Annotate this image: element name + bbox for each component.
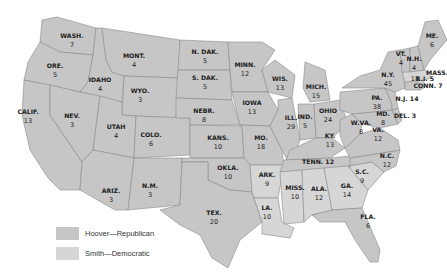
electoral-votes: 5 [53,71,57,79]
electoral-votes: 18 [411,75,419,83]
electoral-votes: 20 [210,218,218,226]
electoral-votes: 13 [248,108,256,116]
state-label: COLO. [141,131,162,138]
state-label: ILL. [285,114,298,121]
state-label: WYO. [131,87,150,94]
state-label: DEL. 3 [394,112,416,119]
electoral-votes: 10 [214,143,222,151]
state-label: WASH. [60,32,83,39]
state-label: ORE. [47,62,64,69]
state-label: KY. [325,132,336,139]
hoover-swatch [56,227,79,240]
state-label: IOWA [243,99,262,106]
electoral-votes: 13 [276,84,284,92]
state-north-dakota [178,40,230,70]
state-label: IND. [298,113,313,120]
electoral-votes: 3 [70,121,74,129]
electoral-votes: 9 [360,177,364,185]
state-label: ARK. [259,171,276,178]
legend-item-smith: Smith—Democratic [56,247,154,260]
electoral-votes: 15 [312,92,320,100]
state-label: TENN. 12 [302,158,334,165]
legend-label-hoover: Hoover—Republican [85,229,154,238]
state-label: VA. [372,126,384,133]
state-arizona [80,150,134,210]
electoral-votes: 12 [315,194,323,202]
electoral-votes: 10 [224,173,232,181]
state-label: N.C. [380,152,394,159]
electoral-votes: 18 [257,143,265,151]
electoral-votes: 7 [70,41,74,49]
state-label: N.H. [406,55,421,62]
state-label: CONN. 7 [414,82,443,89]
state-label: IDAHO [89,76,112,83]
state-label: GA. [341,182,353,189]
state-label: N.Y. [381,71,394,78]
state-label: MD. [376,110,390,117]
state-label: ME. [426,32,439,39]
electoral-votes: 4 [399,59,403,67]
state-label: ALA. [311,185,327,192]
electoral-votes: 12 [241,70,249,78]
state-label: MISS. [285,184,304,191]
electoral-votes: 5 [303,122,307,130]
electoral-votes: 29 [287,123,295,131]
state-label: WIS. [272,75,288,82]
state-label: UTAH [107,123,126,130]
state-label: PA. [371,94,382,101]
state-label: TEX. [206,209,222,216]
electoral-votes: 38 [373,103,381,111]
state-label: CALIF. [17,108,38,115]
state-label: MASS. [426,69,447,76]
electoral-votes: 6 [366,222,370,230]
electoral-votes: 5 [203,57,207,65]
state-label: OHIO [319,107,337,114]
electoral-votes: 6 [430,41,434,49]
state-label: S.C. [355,168,369,175]
electoral-votes: 3 [148,191,152,199]
state-wyoming [122,76,178,118]
state-label: OKLA. [217,164,238,171]
state-label: MONT. [123,52,145,59]
electoral-votes: 12 [374,135,382,143]
electoral-votes: 4 [132,61,136,69]
electoral-votes: 13 [326,141,334,149]
state-kansas [190,125,244,158]
electoral-votes: 9 [265,180,269,188]
state-label: MICH. [306,83,327,90]
state-label: MINN. [234,61,255,68]
electoral-votes: 4 [114,132,118,140]
electoral-votes: 3 [138,96,142,104]
electoral-votes: 13 [24,117,32,125]
state-label: N.M. [142,182,158,189]
legend: Hoover—Republican Smith—Democratic [56,227,154,267]
electoral-votes: 4 [412,64,416,72]
state-label: LA. [261,204,272,211]
state-label: VT. [396,50,406,57]
electoral-votes: 24 [324,116,332,124]
electoral-votes: 5 [203,83,207,91]
state-label: KANS. [207,134,229,141]
electoral-votes: 12 [383,161,391,169]
electoral-votes: 14 [343,191,351,199]
electoral-votes: 4 [98,85,102,93]
electoral-votes: 6 [149,140,153,148]
state-label: W.VA. [351,119,371,126]
state-label: ARIZ. [102,187,121,194]
smith-swatch [56,247,79,260]
electoral-votes: 8 [202,116,206,124]
state-label: N.J. 14 [396,95,420,103]
electoral-votes: 3 [109,196,113,204]
legend-label-smith: Smith—Democratic [85,249,150,258]
electoral-votes: 8 [359,128,363,136]
state-label: NEBR. [193,107,214,114]
state-label: N. DAK. [192,48,219,55]
electoral-votes: 10 [263,213,271,221]
electoral-votes: 45 [384,80,392,88]
state-label: S. DAK. [192,74,218,81]
legend-item-hoover: Hoover—Republican [56,227,154,240]
state-label: NEV. [64,112,80,119]
state-label: MO. [254,134,268,141]
electoral-votes: 10 [291,193,299,201]
electoral-votes: 8 [381,119,385,127]
